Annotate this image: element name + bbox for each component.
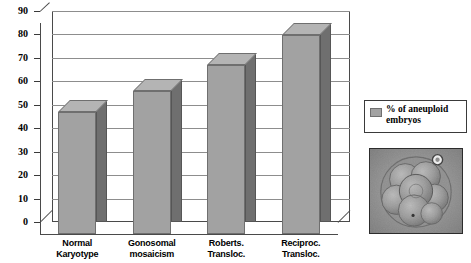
y-axis-label-20: 20 bbox=[6, 170, 28, 180]
bar-2[interactable] bbox=[133, 79, 171, 234]
axis-depth-connector-bottom bbox=[40, 210, 53, 223]
y-axis-label-50: 50 bbox=[6, 100, 28, 110]
bar-front-face-2 bbox=[133, 91, 171, 234]
bar-chart: 0102030405060708090 NormalKaryotypeGonos… bbox=[0, 0, 356, 263]
bar-front-face-1 bbox=[58, 112, 96, 234]
category-label-4: Reciproc.Transloc. bbox=[256, 238, 346, 260]
bar-side-face-2 bbox=[171, 79, 182, 222]
bar-1[interactable] bbox=[58, 100, 96, 234]
bar-4[interactable] bbox=[282, 23, 320, 234]
y-axis-label-70: 70 bbox=[6, 53, 28, 63]
bar-3[interactable] bbox=[207, 53, 245, 234]
bar-front-face-4 bbox=[282, 35, 320, 234]
embryo-micrograph bbox=[369, 148, 463, 234]
y-tick-50 bbox=[34, 105, 40, 106]
bar-side-face-4 bbox=[320, 23, 331, 222]
bar-side-face-1 bbox=[96, 100, 107, 222]
y-axis-label-80: 80 bbox=[6, 29, 28, 39]
y-tick-30 bbox=[34, 152, 40, 153]
y-tick-10 bbox=[34, 199, 40, 200]
embryo-micrograph-image bbox=[370, 149, 462, 233]
y-axis-label-10: 10 bbox=[6, 194, 28, 204]
axis-depth-connector-top bbox=[40, 2, 50, 12]
y-axis-label-60: 60 bbox=[6, 76, 28, 86]
y-tick-0 bbox=[34, 222, 40, 223]
floor-front-edge bbox=[40, 234, 338, 235]
y-axis-label-90: 90 bbox=[6, 6, 28, 16]
gridline-90 bbox=[52, 11, 350, 12]
legend-label-aneuploid: % of aneuploid embryos bbox=[386, 104, 464, 126]
legend: % of aneuploid embryos bbox=[364, 100, 467, 133]
bar-side-face-3 bbox=[245, 53, 256, 222]
y-axis-label-30: 30 bbox=[6, 147, 28, 157]
y-tick-40 bbox=[34, 128, 40, 129]
y-tick-20 bbox=[34, 175, 40, 176]
legend-swatch-aneuploid bbox=[370, 108, 382, 117]
bar-front-face-3 bbox=[207, 65, 245, 234]
y-axis-label-40: 40 bbox=[6, 123, 28, 133]
y-tick-60 bbox=[34, 81, 40, 82]
y-axis-line bbox=[40, 23, 41, 234]
y-tick-80 bbox=[34, 34, 40, 35]
chart-page: 0102030405060708090 NormalKaryotypeGonos… bbox=[0, 0, 471, 263]
y-tick-90 bbox=[34, 11, 40, 12]
y-axis-label-0: 0 bbox=[6, 217, 28, 227]
y-tick-70 bbox=[34, 58, 40, 59]
